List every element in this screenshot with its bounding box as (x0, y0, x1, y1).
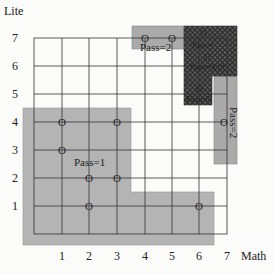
point-marker: O (58, 145, 66, 156)
overlap-text: O (200, 28, 207, 39)
y-tick: 6 (12, 60, 18, 72)
point-marker: O (85, 173, 93, 184)
x-tick: 7 (224, 250, 230, 262)
overlap-text: Pass=3 (186, 94, 212, 105)
point-marker: O (85, 201, 93, 212)
y-tick: 1 (12, 200, 18, 212)
y-tick: 5 (12, 88, 18, 100)
point-marker: O (58, 117, 66, 128)
y-axis-label: Lite (4, 5, 23, 17)
pass2-top-label: Pass=2 (140, 42, 171, 53)
pass1-label: Pass=1 (74, 157, 105, 168)
x-tick: 4 (142, 250, 148, 262)
x-tick: 3 (114, 250, 120, 262)
point-marker: O (195, 201, 203, 212)
point-marker: O (113, 173, 121, 184)
x-tick: 6 (196, 250, 202, 262)
x-tick: 2 (86, 250, 92, 262)
y-tick: 3 (12, 144, 18, 156)
y-tick: 7 (12, 32, 18, 44)
overlap-text: Pass=3 O (190, 62, 224, 73)
point-marker: O (220, 117, 228, 128)
x-tick: 1 (59, 250, 65, 262)
overlap-text: Pass= (192, 40, 213, 51)
y-tick: 4 (12, 116, 18, 128)
x-axis-label: Math (241, 250, 266, 262)
pass2-right-label: Pass=2 (228, 107, 239, 138)
x-tick: 5 (169, 250, 175, 262)
point-marker: O (113, 117, 121, 128)
y-tick: 2 (12, 172, 18, 184)
